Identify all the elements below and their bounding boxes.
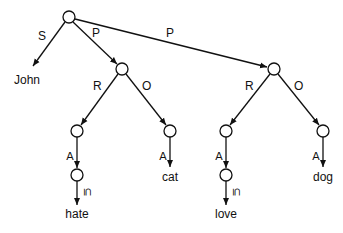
edge-label-r1: R [93,79,102,93]
edge-label-p2: P [166,26,174,40]
subseteq-label-1: ⊆ [81,187,94,196]
node-p2 [268,63,280,75]
edge-label-s: S [38,29,46,43]
node-r2 [220,125,232,137]
terminal-hate: hate [65,207,89,221]
node-r1 [71,125,83,137]
node-r2b [220,169,232,181]
edge-label-o1: O [142,79,151,93]
terminal-love: love [215,207,237,221]
node-root [63,11,75,23]
edge-label-r2: R [245,79,254,93]
terminal-cat: cat [162,170,179,184]
semantic-network-diagram: S P P R O R O ∀ ⊆ ∀ ∀ ⊆ ∀ John hate cat … [0,0,343,233]
terminal-john: John [14,73,40,87]
node-o2 [317,125,329,137]
edge-label-o2: O [294,79,303,93]
forall-label-1: ∀ [66,149,74,162]
node-o1 [164,125,176,137]
subseteq-label-2: ⊆ [230,187,243,196]
node-p1 [116,63,128,75]
edge-label-p1: P [92,26,100,40]
forall-label-cat: ∀ [159,149,167,162]
terminal-dog: dog [313,170,333,184]
forall-label-dog: ∀ [312,149,320,162]
node-r1b [71,169,83,181]
forall-label-2: ∀ [215,149,223,162]
